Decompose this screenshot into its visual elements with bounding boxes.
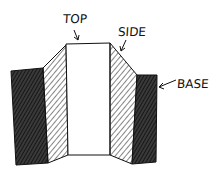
right-base: [132, 75, 157, 164]
label-side: SIDE: [118, 25, 147, 39]
base-arrow-icon: [159, 80, 176, 89]
left-base: [11, 68, 48, 165]
left-side: [43, 45, 68, 163]
drawing: [0, 0, 219, 185]
top-face: [66, 43, 110, 155]
top-arrow-icon: [74, 30, 79, 40]
label-base: BASE: [177, 77, 210, 91]
raised-block-diagram: TOP SIDE BASE: [0, 0, 219, 185]
label-top: TOP: [63, 12, 88, 26]
side-arrow-icon: [120, 40, 126, 51]
